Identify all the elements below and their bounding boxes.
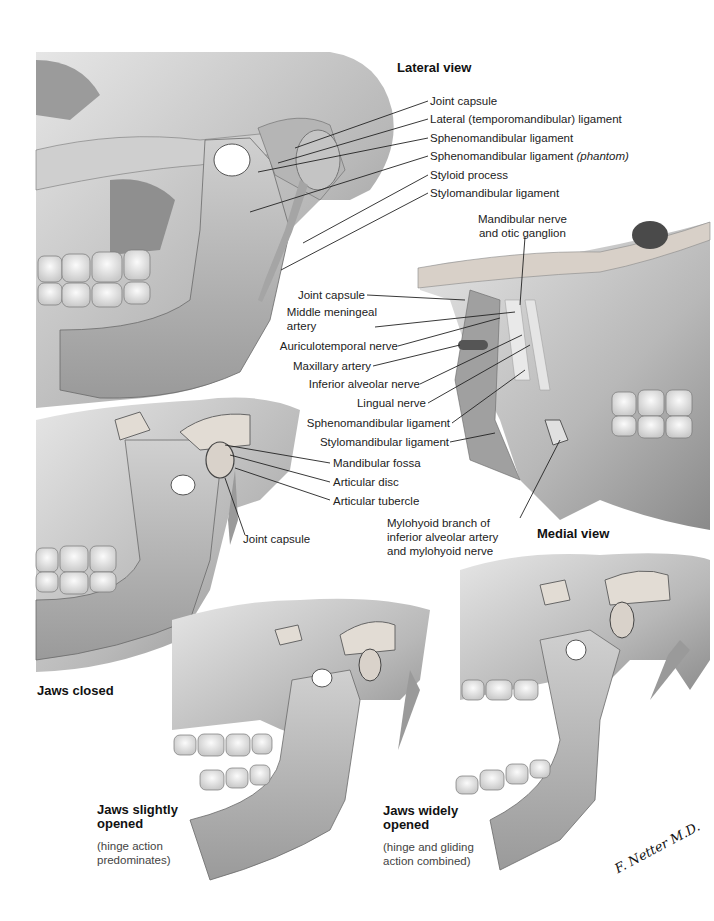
label-line: Middle meningeal xyxy=(287,305,377,319)
label-medial-sphenomandibular-ligament: Sphenomandibular ligament xyxy=(307,416,450,430)
note-line: (hinge and gliding xyxy=(383,840,474,854)
label-line: inferior alveolar artery xyxy=(387,530,498,544)
title-line: opened xyxy=(383,818,458,832)
label-line: and otic ganglion xyxy=(478,226,567,240)
jaws-closed-title: Jaws closed xyxy=(37,683,114,698)
label-text: Sphenomandibular ligament xyxy=(430,150,573,162)
jaws-slightly-opened-illustration xyxy=(172,599,430,880)
lateral-view-title: Lateral view xyxy=(397,60,471,75)
label-medial-joint-capsule: Joint capsule xyxy=(298,288,365,302)
label-inferior-alveolar-nerve: Inferior alveolar nerve xyxy=(309,377,420,391)
label-lateral-styloid-process: Styloid process xyxy=(430,168,508,182)
label-mylohyoid-branch: Mylohyoid branch of inferior alveolar ar… xyxy=(387,516,498,558)
title-line: Jaws widely xyxy=(383,804,458,818)
note-line: action combined) xyxy=(383,854,474,868)
label-middle-meningeal-artery: Middle meningeal artery xyxy=(287,305,377,333)
jaws-widely-opened-illustration xyxy=(456,553,710,870)
label-lateral-stylomandibular-ligament: Stylomandibular ligament xyxy=(430,186,559,200)
medial-view-title: Medial view xyxy=(537,526,609,541)
label-line: artery xyxy=(287,319,377,333)
label-articular-tubercle: Articular tubercle xyxy=(333,494,419,508)
note-line: predominates) xyxy=(97,853,171,867)
label-lateral-temporomandibular-ligament: Lateral (temporomandibular) ligament xyxy=(430,112,622,126)
jaws-widely-opened-note: (hinge and gliding action combined) xyxy=(383,840,474,868)
label-phantom-note: (phantom) xyxy=(576,150,628,162)
jaws-widely-opened-title: Jaws widely opened xyxy=(383,804,458,832)
label-maxillary-artery: Maxillary artery xyxy=(293,359,371,373)
medial-view-skull xyxy=(418,221,710,530)
label-mandibular-fossa: Mandibular fossa xyxy=(333,456,421,470)
title-line: Jaws slightly xyxy=(97,803,178,817)
jaws-slightly-opened-note: (hinge action predominates) xyxy=(97,839,171,867)
label-lingual-nerve: Lingual nerve xyxy=(357,396,426,410)
label-lateral-joint-capsule: Joint capsule xyxy=(430,94,497,108)
label-medial-stylomandibular-ligament: Stylomandibular ligament xyxy=(320,435,449,449)
label-auriculotemporal-nerve: Auriculotemporal nerve xyxy=(280,339,398,353)
label-line: Mylohyoid branch of xyxy=(387,516,498,530)
label-lateral-sphenomandibular-phantom: Sphenomandibular ligament (phantom) xyxy=(430,149,629,163)
label-line: and mylohyoid nerve xyxy=(387,544,498,558)
label-line: Mandibular nerve xyxy=(478,212,567,226)
label-jaws-closed-joint-capsule: Joint capsule xyxy=(243,532,310,546)
lateral-view-skull xyxy=(36,52,394,408)
note-line: (hinge action xyxy=(97,839,171,853)
jaws-slightly-opened-title: Jaws slightly opened xyxy=(97,803,178,831)
label-mandibular-nerve: Mandibular nerve and otic ganglion xyxy=(478,212,567,240)
label-articular-disc: Articular disc xyxy=(333,475,399,489)
label-lateral-sphenomandibular-ligament: Sphenomandibular ligament xyxy=(430,131,573,145)
title-line: opened xyxy=(97,817,178,831)
